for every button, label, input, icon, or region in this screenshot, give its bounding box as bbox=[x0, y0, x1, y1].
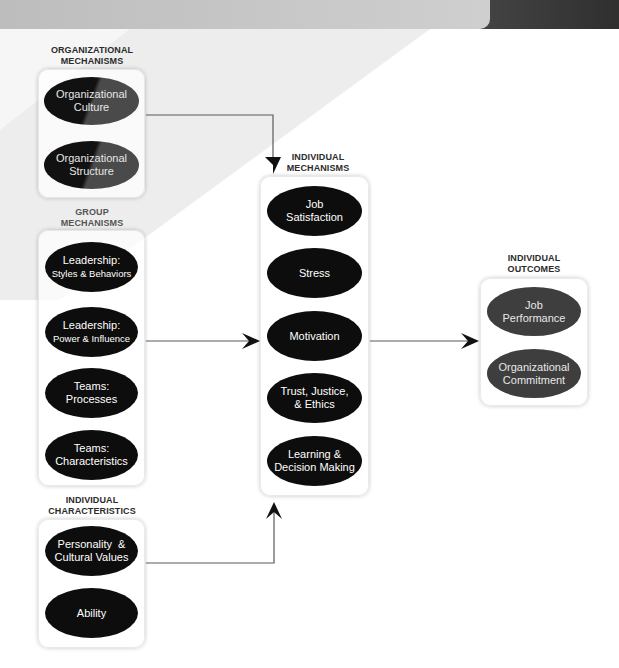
individual-characteristics-title: INDIVIDUAL CHARACTERISTICS bbox=[27, 495, 157, 517]
node-label: Job bbox=[525, 299, 543, 311]
node-motivation[interactable]: Motivation bbox=[267, 311, 362, 361]
title-line: CHARACTERISTICS bbox=[27, 506, 157, 517]
node-label: Ability bbox=[77, 607, 106, 619]
node-label: Organizational bbox=[56, 152, 127, 164]
node-job-performance[interactable]: JobPerformance bbox=[487, 287, 581, 336]
node-label: Personality & bbox=[58, 538, 126, 550]
node-organizational-structure[interactable]: OrganizationalStructure bbox=[44, 141, 139, 189]
node-leadership-power-influence[interactable]: Leadership:Power & Influence bbox=[45, 307, 138, 357]
node-personality-cultural-values[interactable]: Personality &Cultural Values bbox=[45, 526, 138, 576]
title-line: MECHANISMS bbox=[278, 163, 358, 174]
individual-mechanisms-title: INDIVIDUAL MECHANISMS bbox=[278, 152, 358, 174]
node-label: Characteristics bbox=[55, 455, 128, 467]
top-banner bbox=[0, 0, 490, 29]
node-label: Structure bbox=[69, 165, 114, 177]
node-label: Culture bbox=[74, 101, 109, 113]
individual-outcomes-title: INDIVIDUAL OUTCOMES bbox=[494, 253, 574, 275]
node-teams-processes[interactable]: Teams:Processes bbox=[45, 368, 138, 418]
title-line: INDIVIDUAL bbox=[494, 253, 574, 264]
title-line: OUTCOMES bbox=[494, 264, 574, 275]
node-label: & Ethics bbox=[294, 398, 334, 410]
node-job-satisfaction[interactable]: JobSatisfaction bbox=[267, 186, 362, 236]
title-line: MECHANISMS bbox=[32, 218, 152, 229]
node-label: Teams: bbox=[74, 442, 109, 454]
node-organizational-culture[interactable]: OrganizationalCulture bbox=[44, 77, 139, 125]
node-label: Trust, Justice, bbox=[280, 385, 348, 397]
organizational-mechanisms-title: ORGANIZATIONAL MECHANISMS bbox=[32, 45, 152, 67]
node-label: Organizational bbox=[499, 361, 570, 373]
node-label: Stress bbox=[299, 267, 330, 279]
node-label: Styles & Behaviors bbox=[52, 268, 132, 279]
node-label: Teams: bbox=[74, 380, 109, 392]
node-ability[interactable]: Ability bbox=[45, 588, 138, 638]
node-label: Decision Making bbox=[274, 461, 355, 473]
top-banner-right bbox=[480, 0, 619, 29]
node-label: Organizational bbox=[56, 88, 127, 100]
node-learning-decision-making[interactable]: Learning &Decision Making bbox=[267, 436, 362, 486]
node-label: Cultural Values bbox=[55, 551, 129, 563]
node-label: Power & Influence bbox=[53, 333, 130, 344]
node-organizational-commitment[interactable]: OrganizationalCommitment bbox=[487, 349, 581, 398]
title-line: INDIVIDUAL bbox=[278, 152, 358, 163]
node-label: Commitment bbox=[503, 374, 565, 386]
node-label: Leadership: bbox=[63, 319, 121, 331]
title-line: ORGANIZATIONAL bbox=[32, 45, 152, 56]
node-leadership-styles-behaviors[interactable]: Leadership:Styles & Behaviors bbox=[45, 242, 138, 292]
node-label: Learning & bbox=[288, 448, 341, 460]
title-line: MECHANISMS bbox=[32, 56, 152, 67]
node-teams-characteristics[interactable]: Teams:Characteristics bbox=[45, 430, 138, 480]
node-label: Leadership: bbox=[63, 254, 121, 266]
node-trust-justice-ethics[interactable]: Trust, Justice,& Ethics bbox=[267, 373, 362, 423]
group-mechanisms-title: GROUP MECHANISMS bbox=[32, 207, 152, 229]
node-label: Satisfaction bbox=[286, 211, 343, 223]
title-line: INDIVIDUAL bbox=[27, 495, 157, 506]
node-label: Performance bbox=[503, 312, 566, 324]
node-label: Processes bbox=[66, 393, 117, 405]
title-line: GROUP bbox=[32, 207, 152, 218]
node-label: Job bbox=[306, 198, 324, 210]
node-label: Motivation bbox=[289, 330, 339, 342]
node-stress[interactable]: Stress bbox=[267, 248, 362, 298]
